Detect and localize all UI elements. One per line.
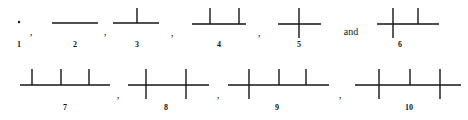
figure-label-9: 9 [275,104,279,112]
figure-label-3: 3 [135,41,139,49]
comma-separator: , [30,26,33,37]
figure-label-6: 6 [398,41,402,49]
diagram-5 [278,8,321,38]
figure-label-5: 5 [297,41,301,49]
comma-separator: , [217,89,220,100]
figure-label-10: 10 [405,104,413,112]
figure-label-7: 7 [63,104,67,112]
diagram-9 [228,69,329,99]
diagram-7 [20,69,110,85]
comma-separator: , [339,89,342,100]
vertex-dot [18,21,20,23]
conjunction-and: and [344,27,358,37]
figure-label-8: 8 [164,104,168,112]
diagram-1 [18,21,20,23]
diagram-4 [192,8,246,24]
comma-separator: , [171,27,174,38]
figure-label-1: 1 [17,41,21,49]
comma-separator: , [258,27,261,38]
diagram-10 [355,69,461,99]
figure-label-4: 4 [217,41,221,49]
comma-separator: , [104,26,107,37]
diagram-6 [377,8,439,38]
comma-separator: , [117,89,120,100]
diagram-3 [113,8,159,23]
figure-label-2: 2 [73,41,77,49]
diagram-8 [128,69,209,99]
diagram-canvas [0,0,468,120]
